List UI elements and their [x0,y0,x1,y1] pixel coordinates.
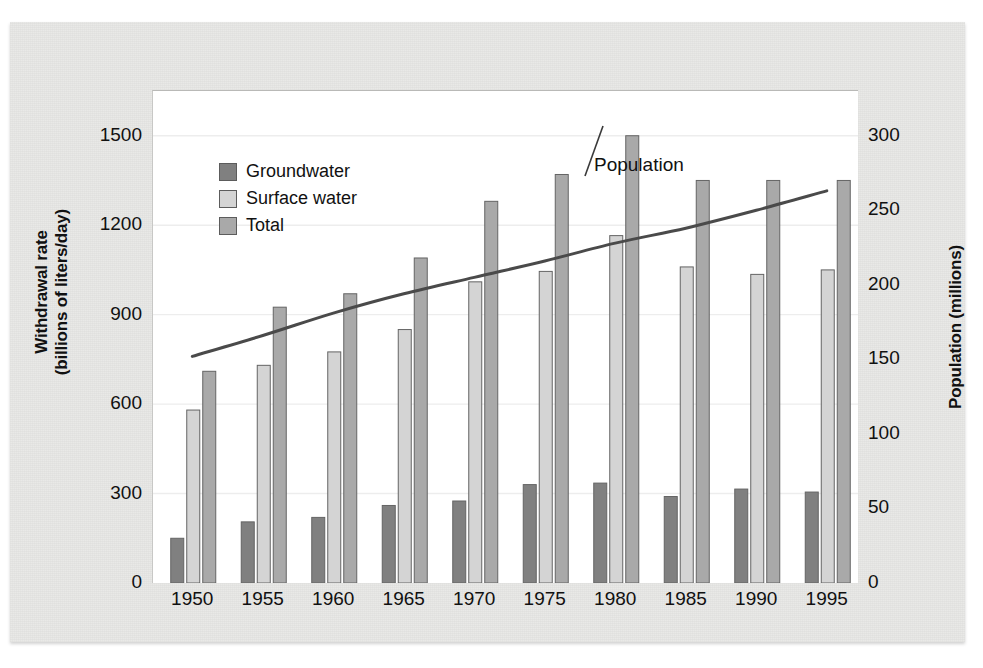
legend-item[interactable]: Total [219,213,357,238]
bar-groundwater[interactable] [594,483,607,583]
bar-total[interactable] [837,180,850,583]
y-axis-right-tick-label: 250 [868,198,900,220]
x-axis-tick-label: 1960 [312,588,354,610]
legend-swatch-icon [219,217,237,235]
y-axis-right-tick-label: 150 [868,347,900,369]
y-axis-right-title: Population (millions) [946,197,966,457]
bar-total[interactable] [555,174,568,583]
x-axis-tick-label: 1970 [453,588,495,610]
x-axis-tick-label: 1985 [665,588,707,610]
legend-item-label: Total [246,215,284,236]
y-axis-right-tick-label: 300 [868,124,900,146]
y-axis-left-tick-label: 600 [110,392,142,414]
bar-groundwater[interactable] [382,505,395,583]
y-axis-left-tick-label: 1500 [100,124,142,146]
population-annotation-label: Population [594,154,684,176]
x-axis-tick-label: 1950 [171,588,213,610]
y-axis-right-tick-label: 0 [868,571,879,593]
y-axis-left-tick-label: 0 [131,571,142,593]
bar-surface-water[interactable] [610,236,623,583]
x-axis-tick-label: 1990 [735,588,777,610]
legend-swatch-icon [219,163,237,181]
bar-total[interactable] [485,201,498,583]
page-frame: Withdrawal rate (billions of liters/day)… [10,22,965,642]
y-axis-left-ticks: 150012009006003000 [54,90,142,582]
y-axis-right-tick-label: 200 [868,273,900,295]
bar-surface-water[interactable] [328,352,341,583]
bar-total[interactable] [696,180,709,583]
bar-surface-water[interactable] [257,365,270,583]
y-axis-right-tick-label: 50 [868,496,889,518]
y-axis-left-tick-label: 1200 [100,213,142,235]
x-axis-tick-label: 1955 [242,588,284,610]
x-axis-tick-label: 1975 [524,588,566,610]
bar-groundwater[interactable] [453,501,466,583]
legend-item-label: Surface water [246,188,357,209]
bar-surface-water[interactable] [469,282,482,583]
bar-groundwater[interactable] [241,522,254,583]
bar-total[interactable] [344,294,357,583]
legend-swatch-icon [219,190,237,208]
bar-total[interactable] [203,371,216,583]
bar-groundwater[interactable] [735,489,748,583]
legend-item[interactable]: Surface water [219,186,357,211]
y-axis-right-tick-label: 100 [868,422,900,444]
x-axis-tick-label: 1980 [594,588,636,610]
bar-groundwater[interactable] [171,538,184,583]
legend-item-label: Groundwater [246,161,350,182]
bar-surface-water[interactable] [680,267,693,583]
plot-panel: GroundwaterSurface waterTotal Population [152,90,858,583]
bar-groundwater[interactable] [523,485,536,583]
bar-total[interactable] [767,180,780,583]
bar-surface-water[interactable] [821,270,834,583]
y-axis-left-tick-label: 900 [110,303,142,325]
y-axis-right-ticks: 300250200150100500 [868,90,938,582]
bar-surface-water[interactable] [398,330,411,583]
x-axis-tick-label: 1965 [383,588,425,610]
bar-total[interactable] [273,307,286,583]
chart-figure: Withdrawal rate (billions of liters/day)… [0,0,983,668]
bar-surface-water[interactable] [751,274,764,583]
bar-groundwater[interactable] [805,492,818,583]
bar-surface-water[interactable] [539,271,552,583]
bar-total[interactable] [414,258,427,583]
bar-groundwater[interactable] [312,517,325,583]
chart-legend: GroundwaterSurface waterTotal [219,159,357,240]
bar-total[interactable] [626,136,639,583]
bar-surface-water[interactable] [187,410,200,583]
legend-item[interactable]: Groundwater [219,159,357,184]
y-axis-left-tick-label: 300 [110,482,142,504]
x-axis-ticks: 1950195519601965197019751980198519901995 [152,588,857,618]
bar-groundwater[interactable] [664,497,677,583]
x-axis-tick-label: 1995 [806,588,848,610]
y-axis-left-title-line1: Withdrawal rate [32,230,51,353]
